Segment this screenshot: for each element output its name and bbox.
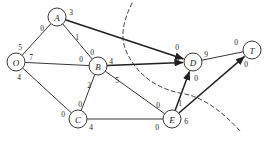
node-layer: OABCDET: [7, 8, 261, 128]
node-label-a: A: [53, 13, 60, 23]
weight-b-e-tail: 5: [115, 76, 119, 85]
weight-a-b-tail: 1: [75, 33, 79, 42]
node-c[interactable]: C: [69, 110, 87, 128]
weight-b-d-head: 0: [175, 57, 179, 66]
weight-e-t-head: 0: [244, 60, 248, 69]
node-label-e: E: [168, 115, 175, 125]
edge-a-d: [66, 20, 183, 59]
weight-o-b-head: 0: [79, 55, 83, 64]
node-b[interactable]: B: [89, 57, 107, 75]
node-label-d: D: [189, 58, 197, 68]
weight-e-d-head: 0: [194, 74, 198, 83]
weight-b-c-head: 0: [78, 100, 82, 109]
weight-e-d-tail: 1: [178, 99, 182, 108]
weight-o-a-head: 0: [40, 24, 44, 33]
weight-b-c-tail: 2: [87, 81, 91, 90]
node-d[interactable]: D: [184, 53, 202, 71]
node-label-o: O: [13, 58, 20, 68]
node-label-b: B: [95, 62, 101, 72]
node-a[interactable]: A: [48, 8, 66, 26]
edge-d-t: [202, 52, 242, 60]
weight-c-e-tail: 4: [89, 123, 93, 132]
node-e[interactable]: E: [163, 110, 181, 128]
weight-o-b-tail: 7: [29, 53, 33, 62]
edge-o-c: [23, 68, 71, 112]
weight-a-d-head: 0: [175, 43, 179, 52]
weight-a-d-tail: 3: [69, 8, 73, 17]
weight-d-t-head: 0: [234, 38, 238, 47]
node-label-c: C: [75, 115, 82, 125]
weight-o-a-tail: 5: [18, 43, 22, 52]
weight-b-e-head: 0: [156, 101, 160, 110]
weight-a-b-head: 0: [90, 48, 94, 57]
weight-o-c-head: 0: [61, 110, 65, 119]
weight-c-e-head: 0: [155, 123, 159, 132]
edge-a-b: [63, 24, 92, 58]
cut-layer: [123, 3, 241, 132]
edge-b-d: [107, 62, 182, 65]
edge-weight-label-layer: 503010704020405040901060: [17, 8, 248, 132]
edge-o-a: [22, 24, 50, 55]
weight-d-t-tail: 9: [204, 50, 208, 59]
node-o[interactable]: O: [7, 53, 25, 71]
min-cut-dashed-curve: [123, 3, 241, 132]
graph-diagram: OABCDET 503010704020405040901060: [0, 0, 274, 142]
weight-o-c-tail: 4: [17, 73, 21, 82]
edge-layer: [22, 20, 244, 119]
node-t[interactable]: T: [243, 41, 261, 59]
weight-b-d-tail: 4: [109, 57, 113, 66]
weight-e-t-tail: 6: [184, 117, 188, 126]
graph-canvas: OABCDET 503010704020405040901060: [0, 0, 274, 142]
